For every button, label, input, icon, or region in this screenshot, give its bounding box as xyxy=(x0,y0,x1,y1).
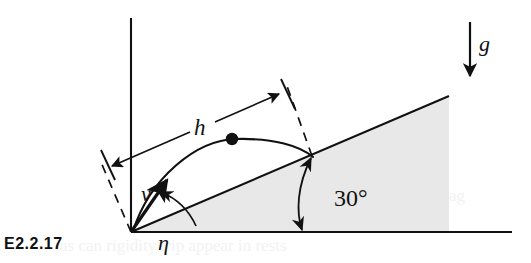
incline-angle-label: 30° xyxy=(334,186,368,210)
dimension-line-h-left xyxy=(112,132,190,166)
projectile-dot xyxy=(226,133,238,145)
dimension-tick-right xyxy=(281,79,295,109)
dimension-extension-left xyxy=(100,160,131,232)
physics-diagram xyxy=(0,0,531,263)
velocity-label: v xyxy=(141,183,151,205)
dimension-line-h-right xyxy=(215,94,279,122)
height-dimension-label: h xyxy=(194,116,206,139)
launch-angle-label: η xyxy=(158,232,169,254)
figure-canvas: flew (7) flag as can rigidity trip appea… xyxy=(0,0,531,263)
figure-id-label: E2.2.17 xyxy=(4,235,63,253)
gravity-label: g xyxy=(479,33,490,55)
